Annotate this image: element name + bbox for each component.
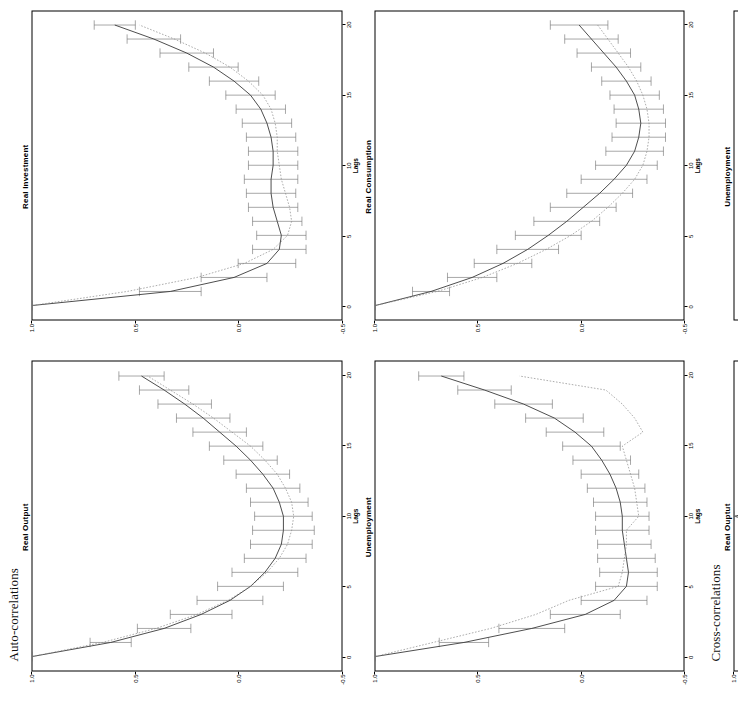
x-tick-label: 0 bbox=[687, 305, 693, 308]
x-tick-label: 15 bbox=[345, 91, 351, 98]
x-axis-label: Lags bbox=[693, 508, 700, 523]
y-tick-label: 0.0 bbox=[578, 324, 584, 332]
x-axis: 05101520Lags bbox=[342, 361, 358, 672]
y-tick-label: -0.5 bbox=[681, 674, 687, 684]
y-tick-label: 0.5 bbox=[474, 324, 480, 332]
plot-frame bbox=[31, 361, 342, 672]
plot-frame bbox=[374, 361, 685, 672]
y-tick-label: -0.5 bbox=[339, 324, 345, 334]
panel-title: Real Output bbox=[19, 357, 31, 698]
y-tick-label: 0.5 bbox=[132, 324, 138, 332]
y-tick-label: 0.5 bbox=[132, 674, 138, 682]
x-tick-label: 15 bbox=[687, 442, 693, 449]
x-axis: 05101520Lags bbox=[684, 361, 700, 672]
x-axis-label: Lags bbox=[693, 158, 700, 173]
panel-row-auto-top: Real Output -0.50.00.51.0 05101520Lags R… bbox=[17, 0, 360, 701]
x-tick-label: 15 bbox=[687, 91, 693, 98]
x-axis: 05101520Lags bbox=[342, 10, 358, 321]
panel-cross-unemployment: Unemployment -1.0-0.50.00.5 -10-50510Lag… bbox=[719, 0, 738, 351]
x-axis: 05101520Lags bbox=[684, 10, 700, 321]
panel-title: Real Ouptut bbox=[721, 357, 733, 698]
y-axis: -0.50.00.51.0 bbox=[31, 671, 342, 697]
plot-area: -0.50.00.51.0 05101520Lags bbox=[374, 6, 701, 347]
x-tick-label: 10 bbox=[687, 162, 693, 169]
x-tick-label: 0 bbox=[687, 655, 693, 658]
plot-svg bbox=[32, 11, 341, 320]
plot-frame bbox=[31, 10, 342, 321]
plot-svg bbox=[734, 362, 738, 671]
panel-auto-real-consumption: Real Consumption -0.50.00.51.0 05101520L… bbox=[360, 0, 703, 351]
x-tick-label: 0 bbox=[345, 305, 351, 308]
x-tick-label: 0 bbox=[345, 655, 351, 658]
y-axis: -0.50.00.51.0 bbox=[374, 321, 685, 347]
x-tick-label: 5 bbox=[345, 234, 351, 237]
y-tick-label: 0.0 bbox=[578, 674, 584, 682]
y-axis: -1.0-0.50.00.5 bbox=[733, 321, 738, 347]
x-tick-label: 20 bbox=[345, 371, 351, 378]
x-tick-label: 5 bbox=[687, 585, 693, 588]
x-tick-label: 10 bbox=[345, 162, 351, 169]
y-axis: -0.50.00.51.0 bbox=[374, 671, 685, 697]
panel-auto-unemployment: Unemployment -0.50.00.51.0 05101520Lags bbox=[360, 351, 703, 701]
section-title-auto-correlations: Auto-correlations bbox=[0, 0, 17, 701]
x-axis-label: Lags bbox=[351, 158, 358, 173]
plot-area: -0.50.00.51.0 05101520Lags bbox=[374, 357, 701, 698]
x-tick-label: 15 bbox=[345, 442, 351, 449]
section-auto-correlations: Auto-correlations Real Output -0.50.00.5… bbox=[0, 0, 702, 701]
plot-area: -0.50.00.51.0 05101520Lags bbox=[31, 6, 358, 347]
x-tick-label: 10 bbox=[345, 512, 351, 519]
x-axis-label: Lags bbox=[351, 508, 358, 523]
plot-svg bbox=[375, 11, 684, 320]
plot-area: -0.50.00.51.0 -10-50510Lags bbox=[733, 357, 738, 698]
panel-title: Unemployment bbox=[362, 357, 374, 698]
panel-row-auto-bottom: Unemployment -0.50.00.51.0 05101520Lags … bbox=[360, 0, 703, 701]
x-tick-label: 5 bbox=[345, 585, 351, 588]
panel-row-cross-top: Real Ouptut -0.50.00.51.0 -10-50510Lags … bbox=[719, 0, 738, 701]
section-cross-correlations: Cross-correlations Real Ouptut -0.50.00.… bbox=[702, 0, 738, 701]
panel-title: Unemployment bbox=[721, 6, 733, 347]
y-tick-label: 0.0 bbox=[235, 324, 241, 332]
panel-title: Real Consumption bbox=[362, 6, 374, 347]
panel-auto-real-investment: Real Investment -0.50.00.51.0 05101520La… bbox=[17, 0, 360, 351]
x-tick-label: 20 bbox=[687, 21, 693, 28]
panel-cross-real-output: Real Ouptut -0.50.00.51.0 -10-50510Lags bbox=[719, 351, 738, 701]
x-tick-label: 20 bbox=[687, 371, 693, 378]
plot-frame bbox=[733, 361, 738, 672]
plot-frame bbox=[733, 10, 738, 321]
y-tick-label: -0.5 bbox=[339, 674, 345, 684]
x-tick-label: 5 bbox=[687, 234, 693, 237]
x-tick-label: 20 bbox=[345, 21, 351, 28]
section-title-cross-correlations: Cross-correlations bbox=[702, 0, 719, 701]
plot-svg bbox=[32, 362, 341, 671]
y-tick-label: 0.5 bbox=[474, 674, 480, 682]
panel-title: Real Investment bbox=[19, 6, 31, 347]
y-axis: -0.50.00.51.0 bbox=[733, 671, 738, 697]
plot-frame bbox=[374, 10, 685, 321]
y-tick-label: 0.0 bbox=[235, 674, 241, 682]
panel-auto-real-output: Real Output -0.50.00.51.0 05101520Lags bbox=[17, 351, 360, 701]
x-tick-label: 10 bbox=[687, 512, 693, 519]
plot-svg bbox=[734, 11, 738, 320]
y-axis: -0.50.00.51.0 bbox=[31, 321, 342, 347]
plot-svg bbox=[375, 362, 684, 671]
plot-area: -1.0-0.50.00.5 -10-50510Lags bbox=[733, 6, 738, 347]
y-tick-label: -0.5 bbox=[681, 324, 687, 334]
plot-area: -0.50.00.51.0 05101520Lags bbox=[31, 357, 358, 698]
